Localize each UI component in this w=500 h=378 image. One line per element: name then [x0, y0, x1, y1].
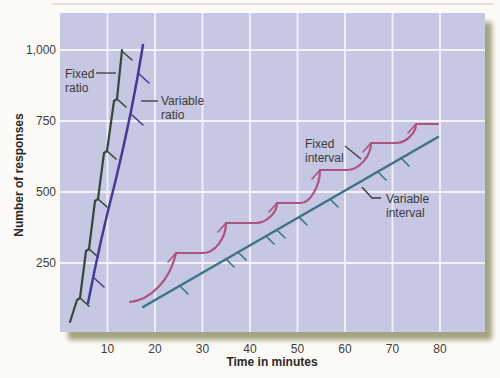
- x-tick-40: 40: [243, 342, 257, 356]
- variable-interval-label-line2: interval: [386, 206, 425, 220]
- y-tick-750: 750: [36, 114, 56, 128]
- x-tick-10: 10: [101, 342, 115, 356]
- plot-area: [60, 13, 485, 332]
- fixed-interval-label-line1: Fixed: [305, 137, 334, 151]
- reinforcement-schedules-figure: Fixed ratio Variable ratio Fixed interva…: [0, 0, 500, 378]
- fixed-ratio-label-line1: Fixed: [65, 67, 94, 81]
- variable-ratio-label-line1: Variable: [161, 94, 204, 108]
- fixed-ratio-label-line2: ratio: [65, 81, 89, 95]
- y-tick-500: 500: [36, 185, 56, 199]
- x-axis-tick-labels: 10 20 30 40 50 60 70 80: [101, 342, 447, 356]
- x-tick-60: 60: [338, 342, 352, 356]
- x-tick-20: 20: [148, 342, 162, 356]
- variable-ratio-label-line2: ratio: [161, 108, 185, 122]
- variable-interval-label-line1: Variable: [386, 192, 429, 206]
- x-tick-70: 70: [386, 342, 400, 356]
- x-tick-80: 80: [433, 342, 447, 356]
- y-tick-250: 250: [36, 256, 56, 270]
- y-tick-1000: 1,000: [26, 43, 56, 57]
- y-axis-tick-labels: 1,000 750 500 250: [26, 43, 56, 270]
- x-tick-30: 30: [196, 342, 210, 356]
- chart-canvas: Fixed ratio Variable ratio Fixed interva…: [0, 0, 500, 378]
- y-axis-title: Number of responses: [12, 113, 26, 237]
- fixed-interval-label-line2: interval: [305, 151, 344, 165]
- x-tick-50: 50: [291, 342, 305, 356]
- x-axis-title: Time in minutes: [226, 355, 317, 369]
